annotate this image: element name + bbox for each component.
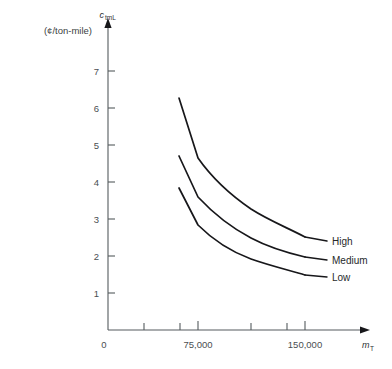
series-label-high: High [332, 236, 353, 247]
line-chart: 1 2 3 4 5 6 7 0 75,000 150,000 c tmL [0, 0, 392, 369]
x-axis-ticks [144, 321, 305, 330]
x-tick-label-150000: 150,000 [288, 339, 322, 350]
series-labels-group: High Medium Low [305, 236, 368, 283]
series-leader-high [305, 237, 327, 241]
axes [104, 18, 370, 334]
y-tick-label-6: 6 [94, 103, 99, 114]
y-axis-tick-labels: 1 2 3 4 5 6 7 [94, 66, 99, 299]
x-tick-label-origin: 0 [101, 339, 106, 350]
y-axis-title-symbol: c [100, 10, 105, 20]
x-tick-label-75000: 75,000 [183, 339, 212, 350]
y-tick-label-1: 1 [94, 288, 99, 299]
y-axis-units-label: (¢/ton-mile) [44, 25, 92, 36]
series-label-medium: Medium [332, 255, 368, 266]
series-curve-low [179, 188, 305, 275]
series-leader-medium [305, 257, 327, 260]
series-leader-low [305, 275, 327, 277]
y-axis-ticks [108, 71, 115, 293]
series-label-low: Low [332, 272, 351, 283]
y-tick-label-5: 5 [94, 140, 99, 151]
x-axis-arrow-icon [360, 326, 370, 333]
x-axis-title: m T [362, 340, 374, 352]
y-axis-title-subscript: tmL [105, 14, 116, 21]
chart-container: 1 2 3 4 5 6 7 0 75,000 150,000 c tmL [0, 0, 392, 369]
y-tick-label-2: 2 [94, 251, 99, 262]
data-series-group [179, 98, 305, 275]
y-tick-label-7: 7 [94, 66, 99, 77]
y-axis-title: c tmL [100, 10, 117, 21]
series-curve-high [179, 98, 305, 237]
series-curve-medium [179, 156, 305, 257]
x-axis-tick-labels: 0 75,000 150,000 [101, 339, 322, 350]
y-tick-label-3: 3 [94, 214, 99, 225]
x-axis-title-subscript: T [370, 345, 374, 352]
x-axis-title-symbol: m [362, 340, 370, 350]
y-tick-label-4: 4 [94, 177, 99, 188]
